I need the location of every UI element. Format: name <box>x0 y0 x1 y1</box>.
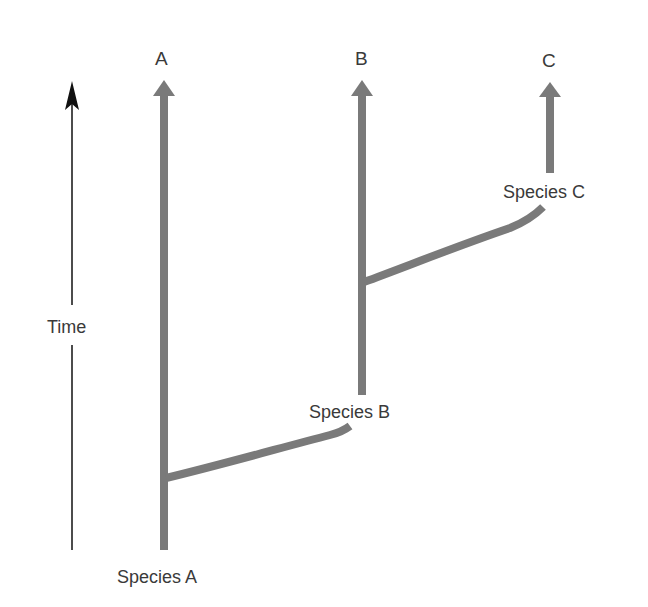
diagram-canvas <box>0 0 648 607</box>
lineage-b-branch <box>351 80 373 395</box>
lineage-c-branch <box>539 82 561 173</box>
species-a-label: Species A <box>117 567 197 588</box>
time-axis-label: Time <box>47 317 86 338</box>
branch-b-to-c <box>364 207 543 282</box>
arrow-up-icon <box>351 80 373 96</box>
lineage-a-top-label: A <box>155 48 168 70</box>
lineage-b-top-label: B <box>355 48 368 70</box>
time-axis <box>65 81 79 550</box>
species-b-label: Species B <box>309 402 390 423</box>
branch-a-to-b <box>166 426 350 478</box>
arrow-up-icon <box>153 80 175 96</box>
lineage-c-top-label: C <box>542 50 556 72</box>
arrow-up-icon <box>539 82 561 97</box>
phylogeny-diagram: A B C Time Species C Species B Species A <box>0 0 648 607</box>
species-c-label: Species C <box>503 182 585 203</box>
